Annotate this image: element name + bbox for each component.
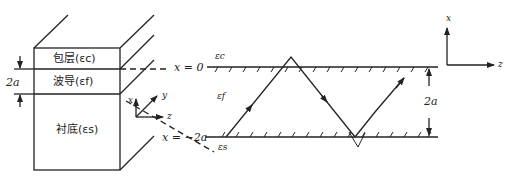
substrate-label: 衬底(εs) — [56, 124, 98, 135]
thickness-label-left: 2a — [6, 77, 20, 88]
guide-label: 波导(εf) — [53, 76, 93, 87]
eps-c-label: εc — [215, 52, 225, 61]
axis-z-label-left: z — [167, 112, 172, 121]
lower-boundary-eq: x = −2a — [162, 132, 207, 143]
slab-front-face — [34, 48, 120, 170]
upper-boundary-eq: x = 0 — [174, 62, 203, 73]
axis-x-label-right: x — [446, 14, 451, 23]
thickness-label-right: 2a — [424, 96, 438, 107]
eps-s-label: εs — [218, 143, 227, 152]
waveguide-diagram — [0, 0, 514, 181]
axis-y-label-left: y — [162, 91, 167, 100]
axis-x-label-left: x — [128, 96, 133, 105]
axis-z-label-right: z — [498, 60, 503, 69]
eps-f-label: εf — [217, 92, 225, 101]
cladding-label: 包层(εc) — [53, 53, 96, 64]
